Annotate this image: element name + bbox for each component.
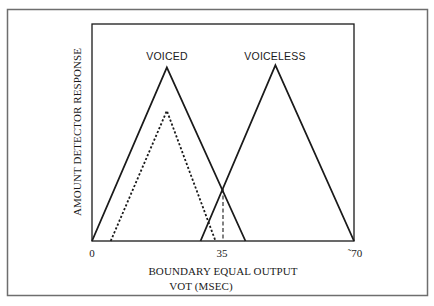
voiced-label: VOICED (146, 50, 188, 62)
voiceless-label: VOICELESS (244, 50, 305, 62)
series-voiced-line (92, 67, 245, 241)
series-voiced-reduced-line (111, 111, 216, 241)
x-axis-title-line2: VOT (MSEC) (169, 280, 233, 293)
x-tick-0: 0 (89, 247, 95, 259)
series-voiceless-line (201, 65, 354, 241)
y-axis-title: AMOUNT DETECTOR RESPONSE (71, 48, 83, 216)
x-axis-title-line1: BOUNDARY EQUAL OUTPUT (148, 265, 297, 277)
x-tick-35: 35 (217, 247, 229, 259)
x-tick-70: ˜70 (348, 247, 363, 259)
series-layer (92, 65, 354, 241)
figure: VOICED VOICELESS 0 35 ˜70 BOUNDARY EQUAL… (0, 0, 434, 306)
